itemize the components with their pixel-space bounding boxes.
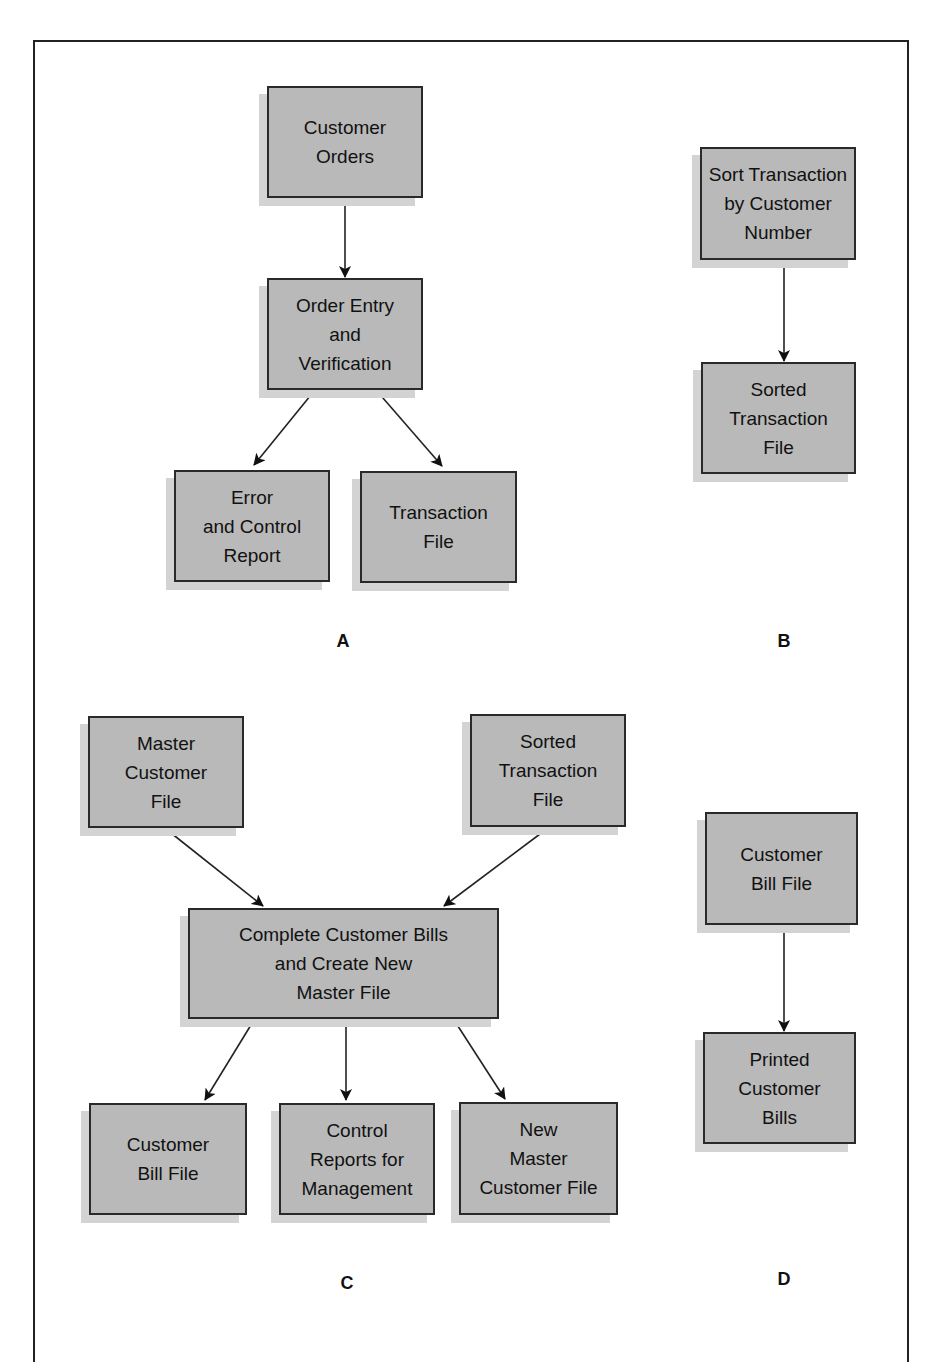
box-label: Control Reports for Management <box>302 1116 413 1203</box>
panel-label-d: D <box>778 1269 791 1290</box>
box-label: Order Entry and Verification <box>296 291 394 378</box>
box-label: Sorted Transaction File <box>729 375 828 462</box>
panel-label-c: C <box>341 1273 354 1294</box>
box-master-customer-file: Master Customer File <box>88 716 244 828</box>
box-label: Customer Bill File <box>740 840 822 898</box>
box-transaction-file: Transaction File <box>360 471 517 583</box>
box-label: Complete Customer Bills and Create New M… <box>239 920 448 1007</box>
box-customer-bill-file-d: Customer Bill File <box>705 812 858 925</box>
box-complete-customer-bills: Complete Customer Bills and Create New M… <box>188 908 499 1019</box>
box-customer-orders: Customer Orders <box>267 86 423 198</box>
box-sort-transaction: Sort Transaction by Customer Number <box>700 147 856 260</box>
box-label: Customer Orders <box>304 113 386 171</box>
box-label: Error and Control Report <box>203 483 301 570</box>
box-printed-customer-bills: Printed Customer Bills <box>703 1032 856 1144</box>
box-order-entry-verification: Order Entry and Verification <box>267 278 423 390</box>
box-label: Printed Customer Bills <box>738 1045 820 1132</box>
box-sorted-transaction-file-c: Sorted Transaction File <box>470 714 626 827</box>
panel-label-b: B <box>778 631 791 652</box>
box-error-control-report: Error and Control Report <box>174 470 330 582</box>
box-label: New Master Customer File <box>479 1115 597 1202</box>
box-label: Transaction File <box>389 498 488 556</box>
box-customer-bill-file-c: Customer Bill File <box>89 1103 247 1215</box>
box-control-reports: Control Reports for Management <box>279 1103 435 1215</box>
box-label: Customer Bill File <box>127 1130 209 1188</box>
box-new-master-customer-file: New Master Customer File <box>459 1102 618 1215</box>
box-sorted-transaction-file-b: Sorted Transaction File <box>701 362 856 474</box>
box-label: Sorted Transaction File <box>499 727 598 814</box>
box-label: Master Customer File <box>125 729 207 816</box>
panel-label-a: A <box>337 631 350 652</box>
box-label: Sort Transaction by Customer Number <box>709 160 847 247</box>
